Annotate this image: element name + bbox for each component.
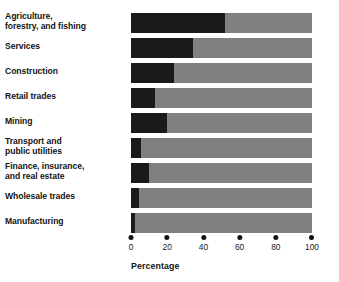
bar-segment-dark: [131, 213, 135, 233]
bar-segment-dark: [131, 138, 141, 158]
bar-segment-dark: [131, 88, 155, 108]
bar-segment-dark: [131, 163, 149, 183]
tick-dot-icon: [165, 235, 170, 240]
chart-row: Mining: [0, 113, 339, 138]
row-label: Finance, insurance, and real estate: [5, 162, 125, 181]
bar-track: [131, 113, 312, 133]
axis-tick: 0: [129, 235, 134, 252]
bar-segment-dark: [131, 13, 225, 33]
row-label: Mining: [5, 113, 125, 127]
tick-label: 0: [129, 242, 134, 252]
bar-segment-dark: [131, 188, 139, 208]
chart-row: Transport and public utilities: [0, 138, 339, 163]
tick-dot-icon: [129, 235, 134, 240]
tick-dot-icon: [273, 235, 278, 240]
bar-track: [131, 138, 312, 158]
axis-tick: 60: [235, 235, 244, 252]
row-label: Retail trades: [5, 88, 125, 102]
x-axis-title: Percentage: [131, 261, 179, 271]
row-label: Services: [5, 38, 125, 52]
chart-row: Wholesale trades: [0, 188, 339, 213]
bar-track: [131, 38, 312, 58]
row-label: Wholesale trades: [5, 188, 125, 202]
bar-track: [131, 63, 312, 83]
bar-segment-dark: [131, 113, 167, 133]
axis-tick: 20: [163, 235, 172, 252]
chart-rows: Agriculture, forestry, and fishingServic…: [0, 13, 339, 238]
tick-label: 60: [235, 242, 244, 252]
tick-dot-icon: [309, 235, 314, 240]
x-axis: 020406080100: [131, 235, 312, 257]
tick-label: 20: [163, 242, 172, 252]
tick-label: 40: [199, 242, 208, 252]
chart-row: Retail trades: [0, 88, 339, 113]
row-label: Agriculture, forestry, and fishing: [5, 12, 125, 31]
tick-label: 100: [305, 242, 319, 252]
chart-row: Services: [0, 38, 339, 63]
chart-row: Finance, insurance, and real estate: [0, 163, 339, 188]
tick-label: 80: [271, 242, 280, 252]
stacked-bar-chart: Agriculture, forestry, and fishingServic…: [0, 0, 339, 282]
tick-dot-icon: [237, 235, 242, 240]
axis-tick: 100: [305, 235, 319, 252]
chart-row: Construction: [0, 63, 339, 88]
tick-dot-icon: [201, 235, 206, 240]
bar-track: [131, 13, 312, 33]
bar-track: [131, 88, 312, 108]
bar-track: [131, 188, 312, 208]
axis-tick: 80: [271, 235, 280, 252]
chart-row: Agriculture, forestry, and fishing: [0, 13, 339, 38]
row-label: Transport and public utilities: [5, 137, 125, 156]
axis-tick: 40: [199, 235, 208, 252]
row-label: Construction: [5, 63, 125, 77]
bar-segment-dark: [131, 63, 174, 83]
bar-track: [131, 213, 312, 233]
row-label: Manufacturing: [5, 213, 125, 227]
bar-segment-dark: [131, 38, 193, 58]
bar-track: [131, 163, 312, 183]
